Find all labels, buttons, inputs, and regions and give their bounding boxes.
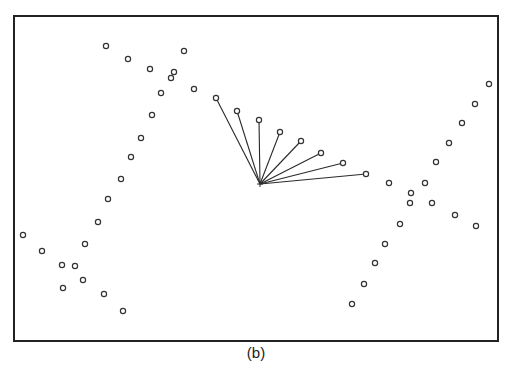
data-point xyxy=(361,281,366,286)
data-point xyxy=(60,285,65,290)
data-point xyxy=(138,135,143,140)
scatter-figure xyxy=(0,0,512,379)
data-point xyxy=(20,232,25,237)
data-point xyxy=(277,129,282,134)
data-point xyxy=(298,138,303,143)
plot-frame xyxy=(14,16,498,341)
data-point xyxy=(128,154,133,159)
data-point xyxy=(459,120,464,125)
fan-line xyxy=(259,120,260,184)
data-point xyxy=(168,75,173,80)
data-point xyxy=(103,43,108,48)
data-point xyxy=(158,90,163,95)
data-point xyxy=(101,291,106,296)
data-point xyxy=(340,160,345,165)
data-point xyxy=(386,180,391,185)
data-point xyxy=(120,308,125,313)
data-point xyxy=(39,248,44,253)
data-points xyxy=(20,43,491,313)
data-point xyxy=(486,81,491,86)
data-point xyxy=(95,219,100,224)
data-point xyxy=(80,277,85,282)
data-point xyxy=(181,48,186,53)
data-point xyxy=(118,176,123,181)
data-point xyxy=(372,260,377,265)
data-point xyxy=(105,196,110,201)
data-point xyxy=(446,140,451,145)
data-point xyxy=(429,200,434,205)
data-point xyxy=(72,263,77,268)
data-point xyxy=(256,117,261,122)
data-point xyxy=(382,241,387,246)
data-point xyxy=(147,66,152,71)
data-point xyxy=(171,69,176,74)
data-point xyxy=(452,212,457,217)
fan-line xyxy=(260,163,343,184)
data-point xyxy=(397,221,402,226)
data-point xyxy=(363,171,368,176)
data-point xyxy=(234,108,239,113)
data-point xyxy=(213,95,218,100)
figure-caption: (b) xyxy=(0,344,512,361)
data-point xyxy=(433,159,438,164)
data-point xyxy=(408,190,413,195)
data-point xyxy=(149,112,154,117)
data-point xyxy=(407,200,412,205)
fan-line xyxy=(260,132,280,184)
data-point xyxy=(473,223,478,228)
data-point xyxy=(191,86,196,91)
data-point xyxy=(472,101,477,106)
data-point xyxy=(125,56,130,61)
fan-line xyxy=(260,141,301,184)
data-point xyxy=(422,180,427,185)
data-point xyxy=(82,241,87,246)
data-point xyxy=(59,262,64,267)
data-point xyxy=(318,150,323,155)
data-point xyxy=(349,301,354,306)
